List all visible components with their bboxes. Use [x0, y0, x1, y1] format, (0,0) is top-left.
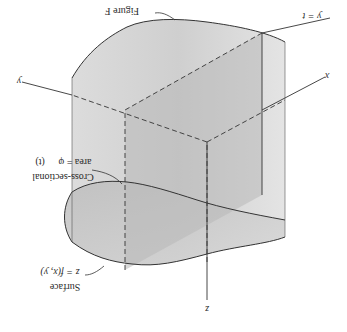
cross-section-label-1: Cross-sectional — [32, 172, 94, 183]
z-axis-label: z — [205, 304, 210, 315]
x-axis-label: x — [324, 71, 330, 82]
surface-label-1: Surface — [49, 282, 80, 293]
plane-label: y = t — [302, 11, 322, 22]
cross-section-label-3: (t) — [35, 156, 44, 168]
y-axis — [22, 82, 72, 95]
surface-leader — [85, 266, 104, 275]
surface-label-2: z = f(x, y) — [40, 266, 81, 278]
figure-F-label: Figure F — [104, 6, 139, 17]
cross-section-label-2: area = φ — [58, 157, 91, 168]
y-axis-label: y — [16, 76, 22, 87]
solid-cross-section-diagram: Figure F y = t x y z Cross-sectional are… — [0, 0, 347, 332]
